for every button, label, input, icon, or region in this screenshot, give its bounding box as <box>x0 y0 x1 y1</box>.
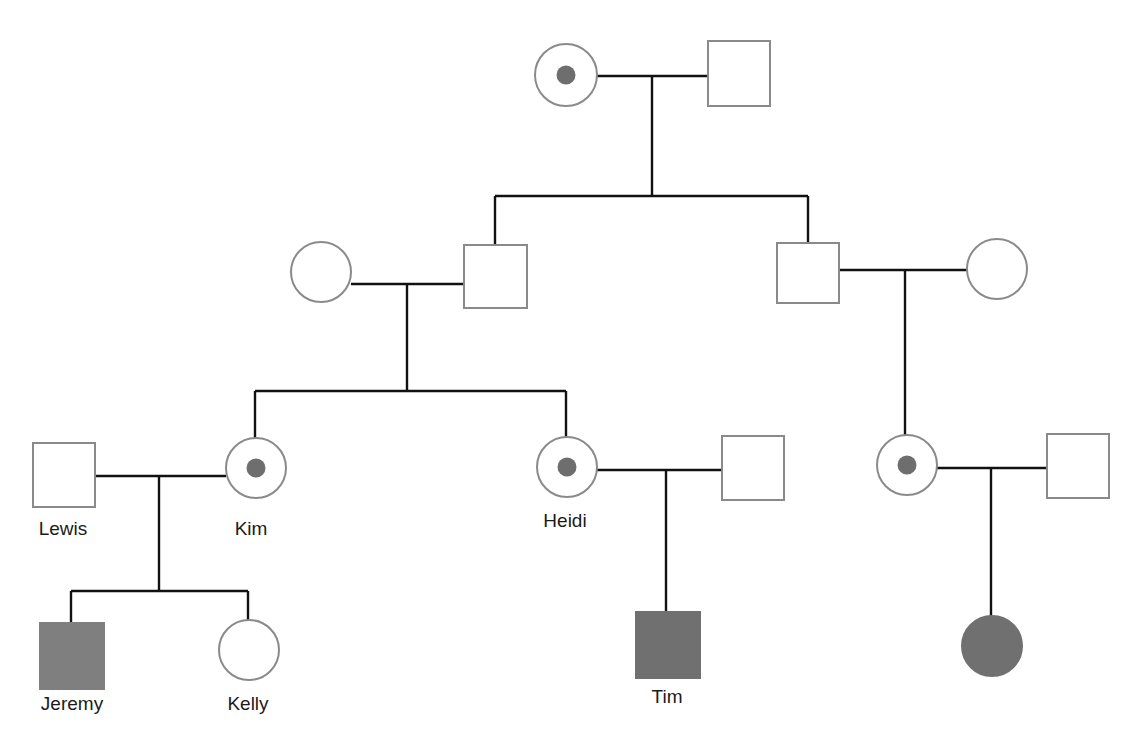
male-unaffected-heidi-spouse <box>722 436 784 500</box>
carrier-dot-icon <box>898 456 917 475</box>
male-unaffected-gen3-right-spouse <box>1047 434 1109 498</box>
female-unaffected-kelly <box>219 620 279 680</box>
label-tim: Tim <box>652 686 683 708</box>
carrier-dot-icon <box>247 459 266 478</box>
male-unaffected-gen1 <box>708 41 770 106</box>
label-lewis: Lewis <box>39 518 88 540</box>
carrier-dot-icon <box>558 458 577 477</box>
female-unaffected-gen2-left <box>291 242 351 302</box>
female-affected-gen4 <box>962 616 1022 676</box>
male-affected-tim <box>636 612 700 678</box>
male-unaffected-gen2-left <box>464 245 527 308</box>
male-unaffected-gen2-right <box>777 243 839 303</box>
label-kelly: Kelly <box>227 693 268 715</box>
pedigree-chart <box>0 0 1145 743</box>
label-jeremy: Jeremy <box>41 693 103 715</box>
male-affected-jeremy <box>40 623 104 689</box>
female-unaffected-gen2-right <box>967 239 1027 299</box>
carrier-dot-icon <box>557 66 576 85</box>
connector-lines <box>71 76 1047 623</box>
male-unaffected-lewis <box>33 443 95 507</box>
label-kim: Kim <box>235 518 268 540</box>
label-heidi: Heidi <box>543 510 586 532</box>
